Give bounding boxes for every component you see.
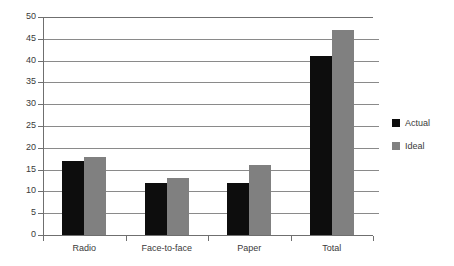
legend-item-actual[interactable]: Actual <box>392 118 452 128</box>
bar-actual-paper <box>227 183 249 235</box>
x-tick-0 <box>43 236 44 241</box>
legend-label-actual: Actual <box>405 119 430 128</box>
y-tick-right-35 <box>373 82 379 83</box>
x-axis-label-total: Total <box>291 243 374 253</box>
x-axis-label-face-to-face: Face-to-face <box>126 243 209 253</box>
legend-swatch-actual <box>392 119 400 127</box>
bars-layer <box>43 17 373 235</box>
y-axis-label-45: 45 <box>6 34 36 43</box>
bar-group-radio <box>62 17 106 235</box>
bar-ideal-paper <box>249 165 271 235</box>
bar-ideal-face-to-face <box>167 178 189 235</box>
x-tick-2 <box>208 236 209 241</box>
y-axis-label-10: 10 <box>6 186 36 195</box>
chart-legend: ActualIdeal <box>392 118 452 164</box>
y-tick-right-5 <box>373 213 379 214</box>
y-tick-right-25 <box>373 126 379 127</box>
x-axis-label-paper: Paper <box>208 243 291 253</box>
x-tick-4 <box>373 236 374 241</box>
y-axis-tick-labels: 05101520253035404550 <box>0 0 36 266</box>
x-tick-3 <box>291 236 292 241</box>
bar-actual-radio <box>62 161 84 235</box>
x-axis-label-radio: Radio <box>43 243 126 253</box>
y-tick-right-20 <box>373 148 379 149</box>
bar-group-face-to-face <box>145 17 189 235</box>
y-tick-right-40 <box>373 61 379 62</box>
y-axis-label-15: 15 <box>6 165 36 174</box>
x-tick-1 <box>126 236 127 241</box>
bar-group-paper <box>227 17 271 235</box>
bar-actual-total <box>310 56 332 235</box>
y-axis-label-0: 0 <box>6 230 36 239</box>
legend-label-ideal: Ideal <box>405 142 425 151</box>
y-axis-label-50: 50 <box>6 12 36 21</box>
legend-item-ideal[interactable]: Ideal <box>392 141 452 151</box>
y-axis-label-35: 35 <box>6 77 36 86</box>
y-axis-label-25: 25 <box>6 121 36 130</box>
bar-group-total <box>310 17 354 235</box>
y-axis-label-5: 5 <box>6 208 36 217</box>
y-tick-right-15 <box>373 170 379 171</box>
bar-actual-face-to-face <box>145 183 167 235</box>
y-tick-right-45 <box>373 39 379 40</box>
bar-chart: 05101520253035404550 RadioFace-to-facePa… <box>0 0 454 266</box>
y-axis-label-30: 30 <box>6 99 36 108</box>
bar-ideal-total <box>332 30 354 235</box>
y-tick-right-10 <box>373 191 379 192</box>
y-axis-label-40: 40 <box>6 56 36 65</box>
bar-ideal-radio <box>84 157 106 235</box>
legend-swatch-ideal <box>392 142 400 150</box>
y-tick-right-30 <box>373 104 379 105</box>
y-axis-label-20: 20 <box>6 143 36 152</box>
